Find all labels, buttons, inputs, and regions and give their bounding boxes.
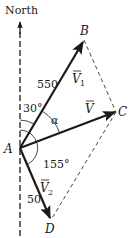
point-label-d: D <box>44 222 55 236</box>
point-label-b: B <box>79 24 89 38</box>
svg-text:V: V <box>85 102 95 116</box>
point-label-c: C <box>118 105 127 119</box>
north-label: North <box>5 4 38 17</box>
magnitude-label-v1: 550 <box>37 78 58 91</box>
angle-label-alpha: α <box>51 114 59 127</box>
angle-label-30: 30° <box>23 102 43 115</box>
vector-diagram: North A B C D 550 50 V <box>0 0 130 238</box>
vector-label-v2: V 2 <box>40 180 53 197</box>
svg-text:2: 2 <box>48 188 53 197</box>
vector-v <box>20 112 115 148</box>
angle-label-155: 155° <box>43 158 70 171</box>
angle-arc-30 <box>20 120 34 124</box>
vector-v1 <box>20 42 83 148</box>
point-label-a: A <box>3 142 13 156</box>
vector-label-v: V <box>85 101 95 116</box>
vector-label-v1: V 1 <box>72 71 85 88</box>
svg-text:1: 1 <box>80 79 85 88</box>
magnitude-label-v2: 50 <box>27 193 41 206</box>
